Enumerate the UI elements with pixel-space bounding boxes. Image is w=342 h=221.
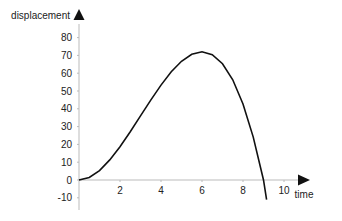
x-tick-label: 2 [117, 185, 123, 196]
y-tick-label: 70 [61, 50, 73, 61]
displacement-time-chart: -1001020304050607080 246810 displacement… [0, 0, 342, 221]
y-ticks: -1001020304050607080 [58, 32, 79, 203]
y-tick-label: 10 [61, 157, 73, 168]
y-tick-label: 50 [61, 86, 73, 97]
x-axis-arrow-icon [298, 175, 310, 186]
x-tick-label: 6 [199, 185, 205, 196]
x-axis-label: time [295, 189, 314, 200]
y-axis-label: displacement [11, 10, 70, 21]
y-tick-label: 0 [66, 175, 72, 186]
x-tick-label: 8 [240, 185, 246, 196]
displacement-curve [79, 52, 267, 200]
y-axis-arrow-icon [74, 9, 85, 20]
y-tick-label: 60 [61, 68, 73, 79]
axes: -1001020304050607080 246810 displacement… [11, 9, 314, 210]
y-tick-label: 30 [61, 121, 73, 132]
y-tick-label: 20 [61, 139, 73, 150]
x-tick-label: 10 [278, 185, 290, 196]
x-tick-label: 4 [158, 185, 164, 196]
y-tick-label: 80 [61, 32, 73, 43]
y-tick-label: -10 [58, 192, 73, 203]
y-tick-label: 40 [61, 103, 73, 114]
